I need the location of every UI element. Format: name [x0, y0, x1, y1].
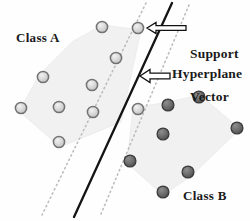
hyperplane-label: Hyperplane	[172, 67, 242, 81]
class-b-label: Class B	[183, 189, 227, 203]
support-vector-label-line2: Vector	[190, 90, 239, 104]
support-vector-label-line1: Support	[190, 47, 239, 61]
class-a-label: Class A	[16, 31, 60, 45]
hyperplane-arrow-icon	[140, 70, 170, 83]
support-vector-arrow-icon	[147, 23, 186, 34]
svm-diagram: Class A Class B Support Vector Hyperplan…	[0, 0, 250, 221]
